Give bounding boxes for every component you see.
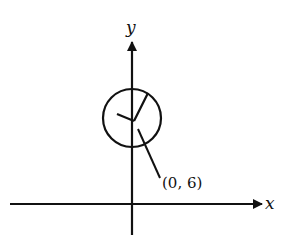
center-point-label: (0, 6) [162, 174, 202, 192]
y-axis-label: y [125, 17, 136, 37]
clock-hand-long [134, 93, 148, 121]
leader-line [138, 129, 160, 178]
x-axis-label: x [265, 193, 275, 213]
coordinate-diagram: y x (0, 6) [0, 0, 287, 245]
